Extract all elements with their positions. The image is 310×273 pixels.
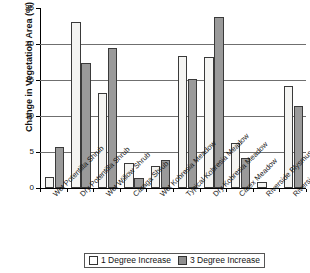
legend-swatch-3-degree-icon xyxy=(178,256,187,265)
x-tick-mark xyxy=(200,189,201,192)
x-tick-mark xyxy=(93,189,94,192)
y-tick-label: 25 xyxy=(12,3,34,12)
bar-series-1-degree xyxy=(45,177,55,188)
x-tick-mark xyxy=(146,189,147,192)
y-tick-label: 15 xyxy=(12,75,34,84)
x-tick-mark xyxy=(120,189,121,192)
vegetation-change-bar-chart: Change in Vegetation Area (%) 0510152025… xyxy=(0,0,310,273)
y-tick-label: 20 xyxy=(12,39,34,48)
legend-swatch-1-degree-icon xyxy=(89,256,98,265)
legend-item-series-3: 3 Degree Increase xyxy=(178,255,260,265)
x-tick-mark xyxy=(253,189,254,192)
y-axis-title: Change in Vegetation Area (%) xyxy=(24,0,34,142)
y-tick-mark xyxy=(36,8,40,9)
x-tick-mark xyxy=(40,189,41,192)
y-tick-label: 0 xyxy=(12,183,34,192)
y-tick-mark xyxy=(36,44,40,45)
y-tick-mark xyxy=(36,116,40,117)
y-tick-label: 5 xyxy=(12,147,34,156)
x-tick-mark xyxy=(67,189,68,192)
bar-series-3-degree xyxy=(294,106,304,188)
y-tick-mark xyxy=(36,80,40,81)
legend-label-3-degree: 3 Degree Increase xyxy=(190,255,260,265)
x-tick-mark xyxy=(279,189,280,192)
chart-legend: 1 Degree Increase 3 Degree Increase xyxy=(84,253,265,268)
y-tick-label: 10 xyxy=(12,111,34,120)
legend-item-series-1: 1 Degree Increase xyxy=(89,255,171,265)
legend-label-1-degree: 1 Degree Increase xyxy=(101,255,171,265)
y-tick-mark xyxy=(36,152,40,153)
x-tick-mark xyxy=(226,189,227,192)
